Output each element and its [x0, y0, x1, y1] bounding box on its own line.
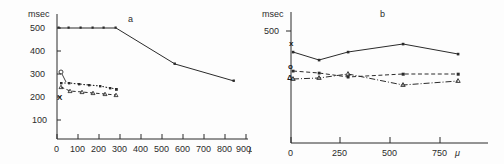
panel-a-ytick-200: 200 — [30, 92, 45, 102]
panel-b-marker-label-x: x — [289, 39, 294, 48]
panel-a-xtick-600: 600 — [175, 144, 190, 154]
panel-b-xtick-250: 250 — [332, 148, 347, 158]
panel-a-series-o-marker — [59, 70, 63, 74]
panel-a-ytick-400: 400 — [30, 46, 45, 56]
chart-panel-b: msec 500 0 250 500 750 μ b — [252, 0, 504, 164]
panel-a-series-x-line — [59, 28, 234, 81]
panel-b-y-axis-label: msec — [262, 9, 284, 19]
panel-b-x-ticks — [291, 137, 440, 143]
chart-panel-a: msec 500 400 300 200 100 — [0, 0, 252, 164]
panel-b-ytick-500: 500 — [264, 26, 279, 36]
panel-a-xtick-800: 800 — [217, 144, 232, 154]
panel-b-marker-label-o: o — [288, 62, 293, 71]
panel-a-ytick-100: 100 — [32, 115, 47, 125]
panel-b-xtick-0: 0 — [288, 148, 293, 158]
panel-a-xtick-500: 500 — [154, 144, 169, 154]
panel-a-series-o-connector — [62, 74, 66, 82]
panel-b-series-x-markers — [292, 43, 460, 62]
panel-b-xtick-750: 750 — [432, 148, 447, 158]
panel-a-letter: a — [128, 14, 133, 24]
panel-b-series-x-line — [293, 44, 458, 60]
panel-a-marker-label-x: X — [57, 93, 63, 102]
panel-a-xtick-400: 400 — [133, 144, 148, 154]
panel-a-xtick-700: 700 — [196, 144, 211, 154]
panel-a-series-square-markers — [60, 82, 118, 91]
panel-a-series-triangle-markers — [59, 85, 118, 96]
panel-a-plot: msec 500 400 300 200 100 — [0, 0, 252, 164]
panel-a-xtick-300: 300 — [112, 144, 127, 154]
panel-b-xtick-500: 500 — [382, 148, 397, 158]
panel-a-ytick-300: 300 — [30, 69, 45, 79]
figure-container: msec 500 400 300 200 100 — [0, 0, 504, 164]
panel-a-ytick-500: 500 — [30, 23, 45, 33]
panel-a-y-axis-label: msec — [28, 9, 50, 19]
panel-b-x-unit: μ — [454, 148, 460, 158]
panel-a-x-ticks — [57, 134, 246, 139]
panel-b-marker-label-triangle: Δ — [287, 73, 293, 82]
panel-b-plot: msec 500 0 250 500 750 μ b — [252, 0, 504, 164]
panel-a-xtick-100: 100 — [70, 144, 85, 154]
panel-a-xtick-200: 200 — [91, 144, 106, 154]
panel-a-xtick-0: 0 — [54, 144, 59, 154]
panel-b-letter: b — [380, 9, 385, 19]
